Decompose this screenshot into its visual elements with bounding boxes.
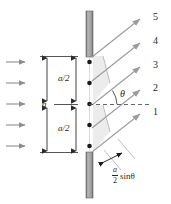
source-point bbox=[87, 102, 92, 107]
path-difference-formula: a 2 sinθ bbox=[112, 166, 135, 185]
wavefront-lines bbox=[103, 56, 135, 170]
source-point bbox=[87, 81, 92, 86]
theta-label: θ bbox=[120, 89, 125, 99]
source-point bbox=[87, 60, 92, 65]
path-difference-wedges bbox=[93, 56, 110, 152]
fraction-a-over-2: a 2 bbox=[112, 166, 118, 185]
ray-label-2: 2 bbox=[153, 83, 158, 93]
theta-arc bbox=[113, 91, 118, 105]
dimension-label-a: a bbox=[42, 100, 47, 109]
figure-container: 5 4 3 2 1 a a/2 a/2 θ a 2 sinθ bbox=[0, 0, 171, 204]
ray-label-1: 1 bbox=[153, 107, 158, 117]
ray-label-5: 5 bbox=[153, 12, 158, 22]
barrier-top bbox=[86, 11, 93, 57]
sin-function: sin bbox=[120, 171, 131, 181]
fraction-numerator: a bbox=[112, 166, 118, 174]
sin-argument-theta: θ bbox=[131, 171, 135, 181]
ray-label-4: 4 bbox=[153, 36, 158, 46]
source-point bbox=[87, 144, 92, 149]
fraction-denominator: 2 bbox=[112, 177, 118, 185]
diffraction-diagram-svg bbox=[0, 0, 171, 204]
dimension-label-a-half-bottom: a/2 bbox=[58, 124, 70, 133]
source-point bbox=[87, 123, 92, 128]
figure-caption bbox=[4, 192, 167, 204]
incoming-wave-arrows bbox=[6, 62, 25, 146]
ray-label-3: 3 bbox=[153, 60, 158, 70]
ray-line-5 bbox=[92, 19, 140, 57]
dimension-label-a-half-top: a/2 bbox=[58, 74, 70, 83]
